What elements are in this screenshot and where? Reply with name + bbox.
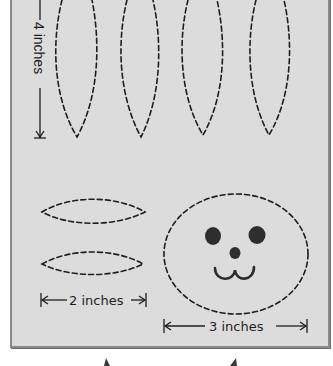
face-width-dimension: 3 inches [164,319,307,334]
pattern-drawing: 4 inches 2 inches 3 inches [0,0,333,366]
face-width-label: 3 inches [209,319,264,334]
paw-outline-2 [42,252,143,275]
partial-mark-right [230,358,237,366]
left-eye [205,227,221,245]
partial-mark-left [104,358,110,366]
ear-outline-3 [182,0,223,135]
ear-height-dimension: 4 inches [31,0,47,138]
paw-width-label: 2 inches [69,293,124,308]
ear-outline-4 [250,0,290,135]
mouth [215,267,254,279]
right-eye [249,226,266,244]
nose [230,247,241,259]
ear-outline-1 [56,0,97,137]
ear-outline-2 [121,0,159,137]
paw-outline-1 [42,199,145,223]
paw-width-dimension: 2 inches [41,293,146,308]
ear-height-label: 4 inches [31,22,47,74]
